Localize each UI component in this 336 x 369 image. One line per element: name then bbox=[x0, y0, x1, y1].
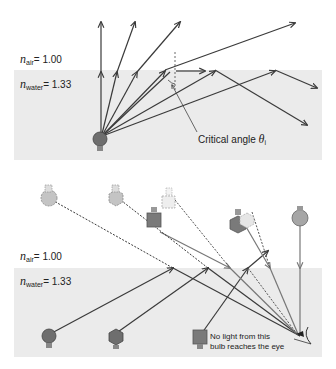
no-light-note: No light from this bulb reaches the eye bbox=[210, 332, 284, 352]
apparent-bulb-square bbox=[147, 207, 161, 227]
virtual-bulb-square-faint bbox=[162, 188, 175, 208]
note-line-2: bulb reaches the eye bbox=[210, 342, 284, 352]
virtual-bulb-hex bbox=[109, 185, 123, 206]
n-air-label-top: nair= 1.00 bbox=[20, 52, 62, 67]
note-line-1: No light from this bbox=[210, 332, 284, 342]
virtual-bulb-round bbox=[41, 185, 57, 206]
critical-angle-label: Critical angle θi bbox=[198, 132, 266, 147]
n-air-label-bottom: nair= 1.00 bbox=[20, 249, 62, 264]
n-water-label-bottom: nwater= 1.33 bbox=[20, 274, 71, 289]
apparent-bulb-hex bbox=[230, 209, 254, 233]
apparent-bulb-round bbox=[292, 206, 308, 226]
n-water-label-top: nwater= 1.33 bbox=[20, 77, 71, 92]
